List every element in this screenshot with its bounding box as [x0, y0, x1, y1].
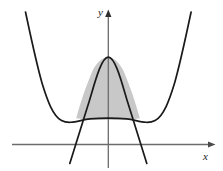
figure-container: y x [0, 0, 223, 171]
graph-canvas [0, 0, 223, 171]
y-axis-label: y [98, 7, 103, 18]
x-axis [12, 141, 216, 147]
x-axis-label: x [203, 151, 208, 162]
